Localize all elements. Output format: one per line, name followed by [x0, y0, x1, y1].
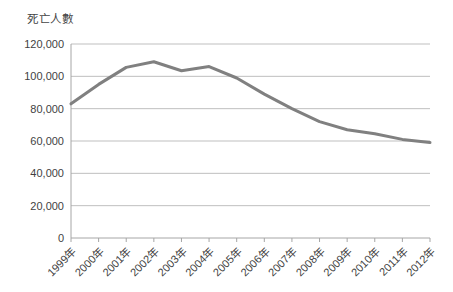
- line-chart-plot: 120,000100,00080,00060,00040,00020,0000 …: [0, 0, 453, 292]
- x-axis-tick-label: 2006年: [237, 244, 271, 278]
- y-axis-tick-labels: 120,000100,00080,00060,00040,00020,0000: [24, 38, 64, 244]
- x-axis-tick-label: 2009年: [320, 244, 354, 278]
- x-axis-tick-label: 2007年: [265, 244, 299, 278]
- y-axis-tick-label: 120,000: [24, 38, 64, 50]
- x-axis-tick-label: 2000年: [72, 244, 106, 278]
- y-axis-tick-label: 20,000: [30, 200, 64, 212]
- x-axis-tick-label: 2004年: [182, 244, 216, 278]
- y-axis-tick-label: 40,000: [30, 167, 64, 179]
- x-axis-tick-marks: [71, 238, 430, 242]
- x-axis-tick-label: 2001年: [99, 244, 133, 278]
- y-axis-tick-label: 60,000: [30, 135, 64, 147]
- chart-container: 死亡人數 120,000100,00080,00060,00040,00020,…: [0, 0, 453, 292]
- x-axis-tick-label: 2005年: [210, 244, 244, 278]
- y-axis-tick-label: 100,000: [24, 70, 64, 82]
- y-axis-tick-label: 80,000: [30, 103, 64, 115]
- x-axis-tick-labels: 1999年2000年2001年2002年2003年2004年2005年2006年…: [44, 244, 437, 278]
- data-series-line: [71, 62, 430, 143]
- y-axis-tick-label: 0: [58, 232, 64, 244]
- x-axis-tick-label: 2008年: [293, 244, 327, 278]
- x-axis-tick-label: 2003年: [155, 244, 189, 278]
- x-axis-tick-label: 2012年: [403, 244, 437, 278]
- x-axis-tick-label: 2002年: [127, 244, 161, 278]
- x-axis-tick-label: 1999年: [44, 244, 78, 278]
- x-axis-tick-label: 2011年: [376, 244, 410, 278]
- x-axis-tick-label: 2010年: [348, 244, 382, 278]
- gridlines-group: [71, 44, 430, 238]
